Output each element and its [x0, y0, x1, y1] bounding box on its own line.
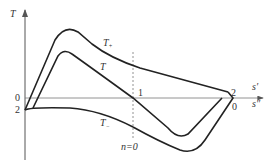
x-axis-lower-label: s″: [252, 98, 261, 109]
diagram-canvas: T 0 2 2 0 1 s′ s″ n=0 T+ T T−: [0, 0, 277, 167]
center-point-label: 1: [138, 87, 143, 98]
right-upper-label: 2: [231, 87, 236, 98]
t-label: T: [100, 61, 107, 72]
right-lower-label: 0: [232, 101, 237, 112]
left-upper-label: 0: [15, 92, 20, 103]
x-axis-upper-label: s′: [252, 81, 259, 92]
t-plus-label: T+: [103, 37, 113, 49]
n-zero-label: n=0: [121, 141, 138, 152]
left-lower-label: 2: [15, 104, 20, 115]
t-minus-curve: [25, 108, 133, 127]
t-minus-label: T−: [100, 117, 110, 129]
right-outer-edge: [133, 92, 233, 151]
y-axis-label: T: [10, 8, 17, 19]
